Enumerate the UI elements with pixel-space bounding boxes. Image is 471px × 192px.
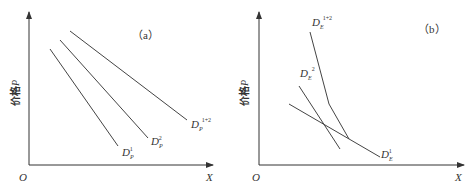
curve-label-dp1: DP1 (121, 146, 134, 160)
panel-b: （b） O X 价格P DE1+2 DE2 DE1 (238, 12, 464, 183)
origin-label: O (19, 171, 27, 183)
curve-label-de1: DE1 (380, 148, 393, 162)
x-axis-label: X (205, 171, 214, 183)
demand-curves-diagram: （a） O X 价格P DP1 DP2 DP1+2 （b） O X 价格P DE… (0, 0, 471, 192)
curve-dp1 (50, 49, 118, 146)
panel-a: （a） O X 价格P DP1 DP2 DP1+2 (9, 12, 214, 183)
y-axis-label: 价格P (238, 80, 250, 106)
curve-label-de2: DE2 (299, 66, 315, 81)
curve-dp12 (70, 31, 187, 120)
origin-label: O (252, 171, 260, 183)
curve-de1 (289, 104, 380, 157)
panel-tag: （b） (418, 23, 446, 35)
curve-de2 (299, 86, 340, 149)
curve-label-dp12: DP1+2 (190, 117, 211, 132)
y-axis-label: 价格P (9, 80, 21, 106)
curve-label-dp2: DP2 (150, 135, 163, 149)
curve-dp2 (60, 40, 148, 138)
x-axis-label: X (454, 171, 463, 183)
panel-tag: （a） (132, 29, 159, 41)
curve-label-de12: DE1+2 (311, 15, 332, 30)
curve-de12 (310, 32, 349, 139)
